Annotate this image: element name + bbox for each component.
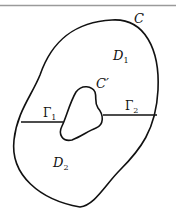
- label-region-d2: D2: [52, 155, 69, 172]
- label-region-d1: D1: [112, 48, 129, 65]
- label-outer-curve: C: [134, 11, 144, 26]
- label-inner-curve: C′: [96, 76, 109, 91]
- label-cut-gamma-1: Γ1: [43, 106, 56, 122]
- label-cut-gamma-2: Γ2: [125, 99, 138, 115]
- inner-curve-c-prime: [60, 87, 102, 141]
- region-diagram: C D1 C′ Γ1 Γ2 D2: [0, 0, 176, 211]
